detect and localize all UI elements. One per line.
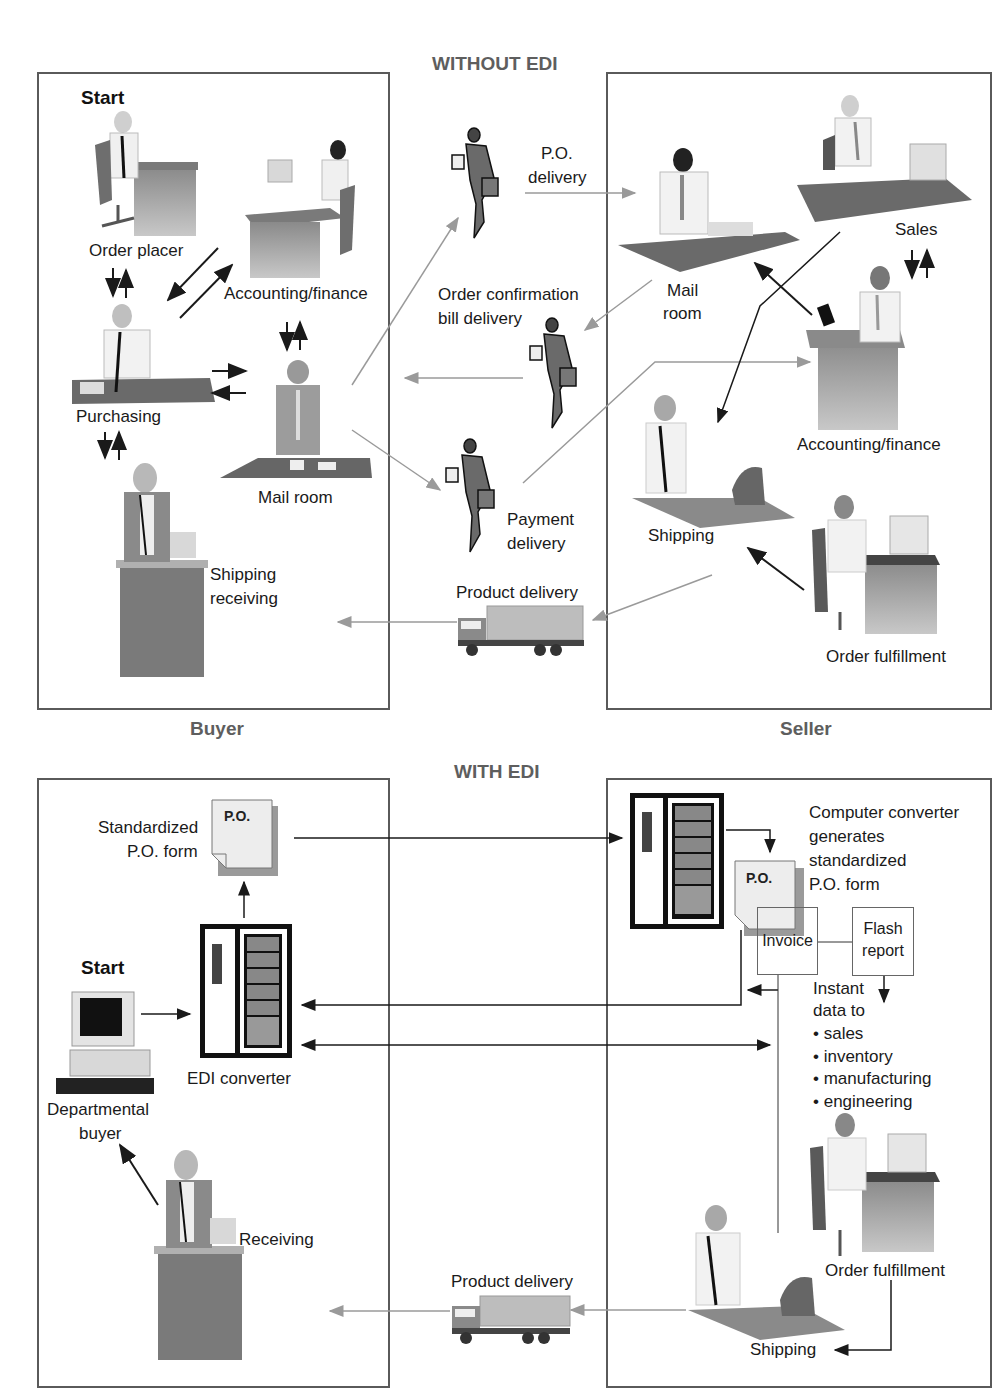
bullet-manufacturing: • manufacturing (813, 1067, 931, 1091)
start-label-bottom: Start (81, 957, 124, 979)
order-fulfillment-figure-bottom (810, 1113, 940, 1256)
po-doc-label-buyer: P.O. (224, 808, 250, 824)
invoice-box: Invoice (757, 907, 818, 975)
converter-text-2: generates (809, 825, 885, 849)
converter-text-4: P.O. form (809, 873, 880, 897)
receiving-figure (154, 1150, 244, 1360)
receiving-label: Receiving (239, 1228, 314, 1252)
flash-report-label-1: Flash (853, 918, 913, 940)
departmental-buyer-label-2: buyer (79, 1122, 122, 1146)
departmental-buyer-computer-icon (56, 992, 154, 1094)
edi-converter-icon (200, 924, 292, 1058)
departmental-buyer-label-1: Departmental (47, 1098, 149, 1122)
product-delivery-label-bottom: Product delivery (451, 1270, 573, 1294)
converter-text-1: Computer converter (809, 801, 959, 825)
converter-text-3: standardized (809, 849, 906, 873)
edi-converter-label: EDI converter (187, 1067, 291, 1091)
po-doc-label-seller: P.O. (746, 870, 772, 886)
order-fulfillment-label-bottom: Order fulfillment (825, 1259, 945, 1283)
flash-report-label-2: report (853, 940, 913, 962)
standardized-po-label-1: Standardized (98, 816, 198, 840)
edi-graphics (0, 0, 1005, 1390)
flash-report-box: Flash report (852, 907, 914, 976)
seller-shipping-label-bottom: Shipping (750, 1338, 816, 1362)
instant-data-label-2: data to (813, 999, 865, 1023)
invoice-label: Invoice (762, 932, 813, 949)
bullet-engineering: • engineering (813, 1090, 913, 1114)
instant-data-label-1: Instant (813, 977, 864, 1001)
bullet-inventory: • inventory (813, 1045, 893, 1069)
standardized-po-label-2: P.O. form (127, 840, 198, 864)
seller-converter-icon (630, 793, 724, 929)
bullet-sales: • sales (813, 1022, 863, 1046)
